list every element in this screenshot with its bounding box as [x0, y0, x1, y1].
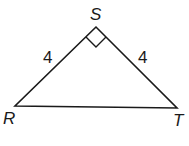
triangle-diagram: S R T 4 4	[0, 0, 189, 146]
right-angle-marker	[86, 37, 106, 47]
triangle-rst	[15, 27, 177, 108]
vertex-label-s: S	[90, 5, 102, 24]
vertex-label-t: T	[173, 111, 185, 130]
vertex-label-r: R	[3, 109, 15, 128]
side-length-st: 4	[138, 48, 147, 67]
side-length-rs: 4	[43, 48, 52, 67]
